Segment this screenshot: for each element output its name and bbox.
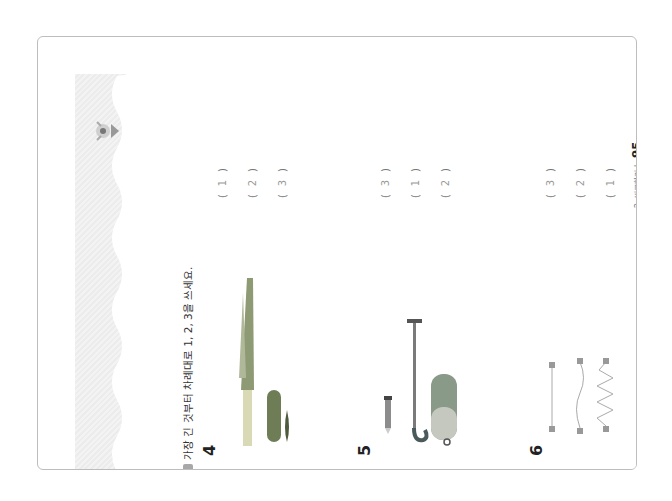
footer-separator: | [634, 165, 637, 168]
page-frame: 가장 긴 것부터 차례대로 1, 2, 3을 쓰세요. 4 (1) (2) (3… [37, 36, 637, 470]
answer-row-4-2[interactable]: (2) [247, 168, 258, 198]
answer-row-4-3[interactable]: (3) [277, 168, 288, 198]
answer-row-6-3[interactable]: (1) [605, 168, 616, 198]
page-footer: 2. 비교하기 | 95 [630, 141, 637, 208]
umbrella-icon [407, 319, 427, 440]
cucumber-icon [267, 390, 281, 442]
straight-string-icon [549, 362, 555, 432]
answer-row-5-3[interactable]: (2) [440, 168, 451, 198]
workbook-page: 가장 긴 것부터 차례대로 1, 2, 3을 쓰세요. 4 (1) (2) (3… [75, 74, 637, 470]
answer-row-6-1[interactable]: (3) [545, 168, 556, 198]
answer-row-5-2[interactable]: (1) [410, 168, 421, 198]
wavy-string-icon [577, 358, 584, 434]
question-5-illustration [367, 268, 461, 468]
page-number: 95 [630, 141, 637, 158]
mascot-illustration-icon [89, 114, 123, 148]
leek-icon [239, 278, 254, 446]
zigzag-string-icon [597, 358, 613, 432]
question-4-illustration [213, 268, 297, 468]
answer-row-6-2[interactable]: (2) [575, 168, 586, 198]
answer-row-5-1[interactable]: (3) [380, 168, 391, 198]
chapter-label: 2. 비교하기 [634, 170, 637, 208]
instruction-text: 가장 긴 것부터 차례대로 1, 2, 3을 쓰세요. [180, 267, 195, 470]
pencil-icon [384, 396, 392, 434]
pencil-bullet-icon [183, 464, 193, 470]
answer-row-4-1[interactable]: (1) [217, 168, 228, 198]
question-6-illustration [537, 268, 621, 468]
pepper-icon [285, 410, 289, 442]
pencil-case-icon [431, 374, 457, 445]
